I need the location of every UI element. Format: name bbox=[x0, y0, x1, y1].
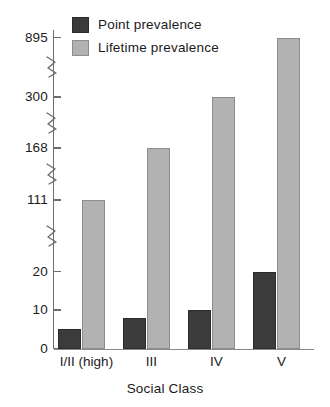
prevalence-bar-chart: Point prevalence Lifetime prevalence 010… bbox=[0, 0, 330, 407]
x-axis-title: Social Class bbox=[0, 381, 330, 396]
x-axis-category-label: V bbox=[237, 355, 326, 369]
bar-lifetime-prevalence bbox=[277, 38, 300, 349]
bar-point-prevalence bbox=[123, 318, 146, 349]
bars-layer bbox=[54, 28, 316, 349]
y-axis-tick-label: 10 bbox=[0, 303, 48, 317]
bar-lifetime-prevalence bbox=[82, 200, 105, 349]
y-axis-tick-label: 300 bbox=[0, 90, 48, 104]
bar-point-prevalence bbox=[253, 272, 276, 349]
y-axis-tick-label: 895 bbox=[0, 31, 48, 45]
y-axis-tick-label: 20 bbox=[0, 265, 48, 279]
y-axis-tick-label: 111 bbox=[0, 193, 48, 207]
bar-point-prevalence bbox=[188, 310, 211, 349]
y-axis-tick-label: 0 bbox=[0, 342, 48, 356]
y-axis-tick-label: 168 bbox=[0, 141, 48, 155]
x-axis-line bbox=[54, 349, 314, 350]
bar-point-prevalence bbox=[58, 329, 81, 348]
bar-lifetime-prevalence bbox=[212, 97, 235, 349]
bar-lifetime-prevalence bbox=[147, 148, 170, 349]
